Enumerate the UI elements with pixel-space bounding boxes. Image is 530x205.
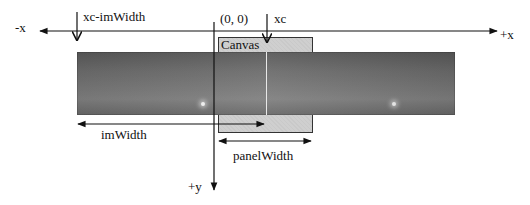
x-negative-label: -x (15, 21, 26, 35)
diagram-lines (0, 0, 530, 205)
origin-label: (0, 0) (220, 12, 248, 26)
xc-label: xc (274, 12, 286, 26)
panelwidth-label: panelWidth (233, 149, 293, 163)
imwidth-label: imWidth (101, 128, 147, 142)
y-positive-label: +y (188, 180, 202, 194)
x-positive-label: +x (500, 28, 514, 42)
xc-imwidth-label: xc-imWidth (83, 10, 145, 24)
